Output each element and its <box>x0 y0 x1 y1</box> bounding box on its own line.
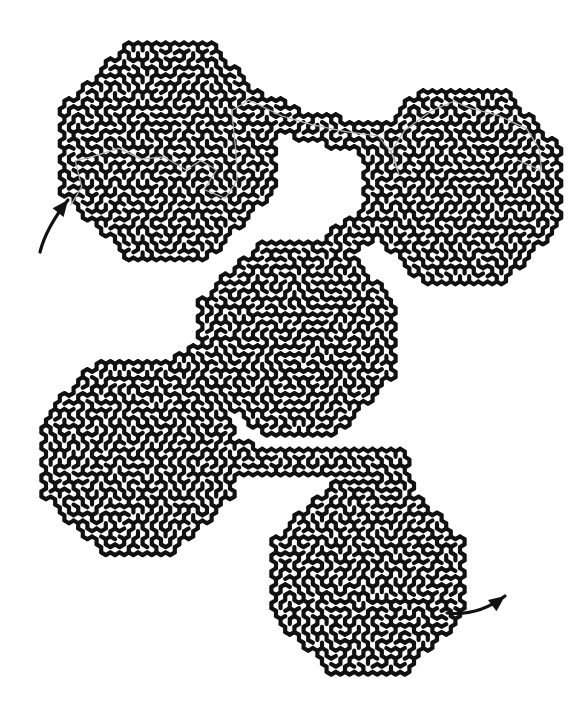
arrow-head <box>53 200 68 217</box>
entry-arrow-icon <box>40 200 68 252</box>
maze-figure <box>0 0 586 704</box>
maze-walls <box>41 43 561 675</box>
maze-wall-paths <box>41 43 561 675</box>
